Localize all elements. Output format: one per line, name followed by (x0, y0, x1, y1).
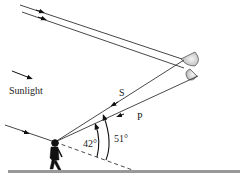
sun-rays (20, 5, 184, 68)
ground (8, 170, 240, 173)
angle-arcs: 42° 51° (83, 117, 128, 160)
raindrops (181, 52, 199, 80)
angle-51-label: 51° (114, 133, 128, 144)
label-s: S (119, 87, 125, 98)
raindrop-upper (181, 52, 199, 66)
raindrop-lower (186, 69, 197, 80)
sunlight-label: Sunlight (9, 85, 43, 96)
label-p: P (137, 111, 143, 122)
observer-rays: S P (55, 60, 198, 142)
sunlight-legend: Sunlight (9, 71, 43, 96)
rainbow-diagram: Sunlight S P 42° 51° (0, 0, 247, 187)
observer-figure (50, 140, 62, 171)
angle-42-label: 42° (83, 138, 97, 149)
